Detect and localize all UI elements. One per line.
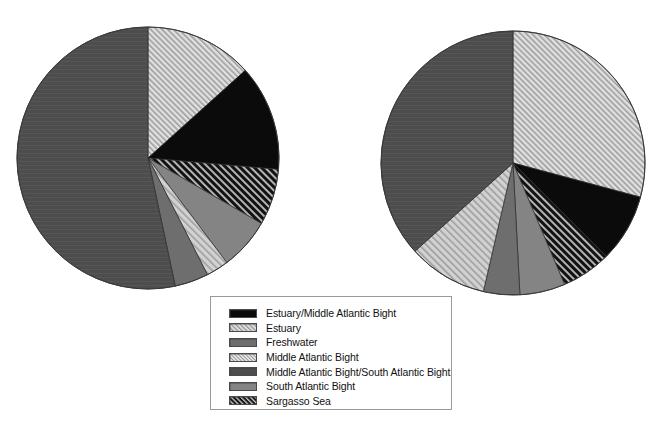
legend-item: Middle Atlantic Bight [229,350,450,365]
legend-swatch-hatch-light [229,323,257,332]
left-pie-svg [15,25,281,291]
chart-legend: Estuary/Middle Atlantic BightEstuaryFres… [210,296,452,410]
legend-item: Estuary/Middle Atlantic Bight [229,306,450,321]
right-pie-chart [379,29,647,297]
left-pie-chart [15,25,281,291]
legend-item: South Atlantic Bight [229,379,450,394]
legend-label: Middle Atlantic Bight [266,352,358,362]
legend-item: Sargasso Sea [229,394,450,409]
legend-item: Middle Atlantic Bight/South Atlantic Big… [229,364,450,379]
legend-swatch-solid-gray-dark [229,367,257,376]
legend-label: Estuary/Middle Atlantic Bight [266,308,396,318]
figure-canvas: Estuary/Middle Atlantic BightEstuaryFres… [0,0,664,427]
legend-swatch-hatch-dark [229,396,257,405]
legend-swatch-hatch-very-light [229,353,257,362]
legend-label: Sargasso Sea [266,396,331,406]
legend-label: Estuary [266,323,301,333]
legend-label: Freshwater [266,337,318,347]
legend-item-list: Estuary/Middle Atlantic BightEstuaryFres… [229,306,450,408]
legend-swatch-solid-gray-medium [229,338,257,347]
legend-swatch-solid-black [229,309,257,318]
legend-item: Estuary [229,321,450,336]
right-pie-svg [379,29,647,297]
legend-label: South Atlantic Bight [266,381,355,391]
legend-label: Middle Atlantic Bight/South Atlantic Big… [266,367,450,377]
legend-swatch-solid-gray-mid [229,382,257,391]
legend-item: Freshwater [229,335,450,350]
